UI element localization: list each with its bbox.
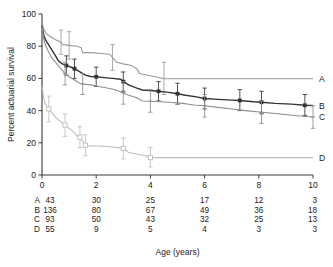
marker-D (121, 146, 125, 150)
x-tick-label-0: 0 (40, 180, 45, 190)
risk-value-D-x10: 3 (312, 225, 317, 234)
risk-value-A-x10: 3 (312, 196, 317, 205)
series-label-D: D (319, 153, 325, 163)
risk-value-D-x6: 4 (202, 225, 207, 234)
marker-B (176, 92, 180, 96)
y-axis-title: Percent actuarial survival (6, 47, 16, 142)
x-tick-label-2: 2 (94, 180, 99, 190)
risk-value-D-x2: 9 (94, 225, 99, 234)
risk-value-B-x4: 67 (146, 206, 156, 215)
y-tick-label-80: 80 (27, 41, 37, 51)
marker-B (303, 103, 307, 107)
curve-A (42, 24, 313, 79)
risk-value-B-x6: 49 (200, 206, 210, 215)
risk-value-C-x6: 32 (200, 215, 210, 224)
x-axis-title: Age (years) (156, 247, 200, 257)
risk-value-C-x0: 93 (45, 215, 55, 224)
risk-value-D-x0: 55 (45, 225, 55, 234)
risk-row-label-C: C (34, 215, 40, 224)
marker-B (238, 99, 242, 103)
survival-chart-figure: 0204060801000246810Percent actuarial sur… (0, 0, 333, 267)
risk-value-A-x2: 30 (92, 196, 102, 205)
risk-row-label-A: A (35, 196, 41, 205)
risk-value-C-x4: 43 (146, 215, 156, 224)
y-tick-label-0: 0 (31, 170, 36, 180)
risk-value-C-x10: 13 (308, 215, 318, 224)
series-label-B: B (319, 101, 325, 111)
risk-value-A-x8: 12 (254, 196, 264, 205)
x-tick-label-4: 4 (148, 180, 153, 190)
y-tick-label-60: 60 (27, 73, 37, 83)
x-tick-label-6: 6 (202, 180, 207, 190)
y-tick-label-40: 40 (27, 106, 37, 116)
chart-canvas: 0204060801000246810Percent actuarial sur… (0, 0, 333, 267)
risk-row-label-D: D (34, 225, 40, 234)
marker-D (83, 143, 87, 147)
risk-value-B-x0: 136 (43, 206, 57, 215)
risk-value-A-x4: 25 (146, 196, 156, 205)
series-label-C: C (319, 112, 325, 122)
risk-value-D-x8: 3 (257, 225, 262, 234)
risk-row-label-B: B (35, 206, 41, 215)
risk-value-B-x8: 36 (254, 206, 264, 215)
marker-D (78, 135, 82, 139)
risk-value-B-x10: 18 (308, 206, 318, 215)
marker-B (157, 89, 161, 93)
risk-value-C-x2: 50 (92, 215, 102, 224)
risk-value-A-x6: 17 (200, 196, 210, 205)
marker-D (63, 123, 67, 127)
risk-value-D-x4: 5 (148, 225, 153, 234)
series-label-A: A (319, 74, 325, 84)
x-tick-label-8: 8 (256, 180, 261, 190)
marker-B (73, 67, 77, 71)
y-tick-label-20: 20 (27, 138, 37, 148)
x-tick-label-10: 10 (308, 180, 318, 190)
risk-value-A-x0: 43 (45, 196, 55, 205)
risk-value-C-x8: 25 (254, 215, 264, 224)
marker-D (148, 156, 152, 160)
marker-B (94, 75, 98, 79)
risk-value-B-x2: 80 (92, 206, 102, 215)
y-tick-label-100: 100 (22, 9, 36, 19)
marker-D (47, 107, 51, 111)
